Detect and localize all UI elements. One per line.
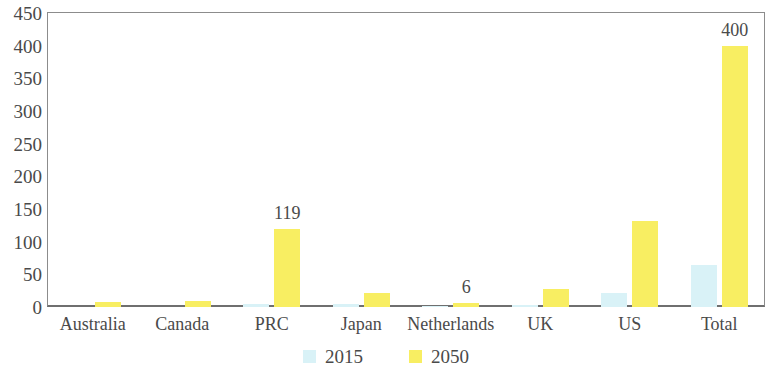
- legend-label: 2015: [325, 347, 363, 366]
- bar-group: [317, 13, 407, 307]
- bar-2050-australia: [95, 302, 121, 307]
- bar-value-label: 400: [721, 21, 748, 39]
- bar-2015-uk: [512, 305, 538, 307]
- bar-2050-prc: 119: [274, 229, 300, 307]
- legend-label: 2050: [431, 347, 469, 366]
- bar-2050-total: 400: [722, 46, 748, 307]
- y-tick-label: 450: [0, 4, 42, 23]
- x-tick-label-us: US: [585, 312, 675, 338]
- bar-2050-canada: [185, 301, 211, 307]
- bar-group: [585, 13, 675, 307]
- legend-swatch-icon: [303, 350, 316, 363]
- x-tick-label-prc: PRC: [227, 312, 317, 338]
- bar-2015-japan: [333, 304, 359, 307]
- legend-item-2015[interactable]: 2015: [303, 347, 363, 366]
- x-tick-label-netherlands: Netherlands: [406, 312, 496, 338]
- bar-2015-netherlands: [422, 306, 448, 307]
- y-tick-label: 400: [0, 37, 42, 56]
- bar-2015-us: [601, 293, 627, 307]
- y-tick-label: 100: [0, 233, 42, 252]
- x-tick-label-australia: Australia: [48, 312, 138, 338]
- legend-swatch-icon: [409, 350, 422, 363]
- x-tick-label-uk: UK: [496, 312, 586, 338]
- y-tick-label: 250: [0, 135, 42, 154]
- y-tick-label: 300: [0, 102, 42, 121]
- bar-value-label: 119: [274, 204, 300, 222]
- chart-legend: 20152050: [0, 347, 772, 366]
- y-axis: 450400350300250200150100500: [0, 0, 42, 320]
- bar-2050-netherlands: 6: [453, 303, 479, 307]
- bar-group: 400: [675, 13, 765, 307]
- x-tick-label-canada: Canada: [138, 312, 228, 338]
- bars-layer: 1196400: [48, 13, 764, 307]
- bar-value-label: 6: [462, 278, 471, 296]
- bar-group: [496, 13, 586, 307]
- y-tick-label: 50: [0, 265, 42, 284]
- bar-2015-total: [691, 265, 717, 307]
- bar-group: [138, 13, 228, 307]
- y-tick-label: 200: [0, 167, 42, 186]
- bar-2050-japan: [364, 293, 390, 307]
- bar-group: 6: [406, 13, 496, 307]
- bar-2050-us: [632, 221, 658, 307]
- bar-group: [48, 13, 138, 307]
- y-tick-label: 350: [0, 69, 42, 88]
- x-tick-label-total: Total: [675, 312, 765, 338]
- legend-item-2050[interactable]: 2050: [409, 347, 469, 366]
- bar-2015-prc: [243, 304, 269, 307]
- y-tick-label: 150: [0, 200, 42, 219]
- y-tick-label: 0: [0, 298, 42, 317]
- bar-2050-uk: [543, 289, 569, 307]
- x-tick-label-japan: Japan: [317, 312, 407, 338]
- x-axis: AustraliaCanadaPRCJapanNetherlandsUKUSTo…: [48, 312, 764, 338]
- bar-chart: 450400350300250200150100500 1196400 Aust…: [0, 0, 772, 373]
- bar-group: 119: [227, 13, 317, 307]
